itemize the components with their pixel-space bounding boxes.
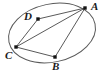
vertex-point-c	[14, 45, 17, 48]
vertex-point-a	[83, 6, 86, 9]
vertex-label-b: B	[52, 61, 59, 72]
geometry-figure: ABCD	[0, 0, 104, 76]
vertex-label-a: A	[91, 1, 98, 12]
segment-a-b	[55, 8, 85, 57]
segment-a-d	[38, 8, 85, 19]
vertex-point-b	[53, 55, 56, 58]
vertex-label-c: C	[5, 50, 12, 61]
segment-c-b	[16, 47, 55, 57]
vertex-label-d: D	[24, 11, 32, 22]
segment-d-c	[16, 19, 38, 47]
vertex-point-d	[36, 17, 39, 20]
